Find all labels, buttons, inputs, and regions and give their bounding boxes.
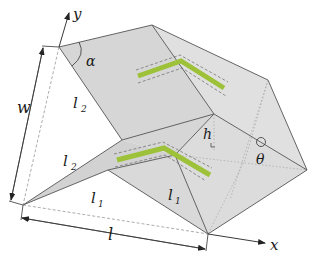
theta-label: θ: [256, 151, 265, 167]
l-label: l: [108, 225, 113, 244]
svg-text:2: 2: [80, 104, 87, 114]
x-axis: [208, 234, 265, 243]
l2-upper-label: l 2: [73, 94, 87, 114]
alpha-label: α: [86, 53, 96, 69]
w-label: w: [17, 98, 31, 117]
h-label: h: [203, 126, 212, 142]
l2-lower-label: l 2: [63, 152, 77, 172]
svg-text:l: l: [168, 186, 173, 204]
y-axis-label: y: [72, 5, 82, 23]
svg-text:1: 1: [98, 199, 104, 209]
svg-text:l: l: [91, 189, 96, 207]
svg-text:1: 1: [175, 196, 181, 206]
y-axis: [59, 13, 69, 47]
svg-text:l: l: [73, 94, 78, 112]
svg-text:l: l: [63, 152, 68, 170]
svg-text:2: 2: [70, 162, 77, 172]
x-axis-label: x: [270, 236, 279, 254]
origami-fold-diagram: y x α θ h w l l 2 l 2 l 1 l 1: [0, 0, 315, 256]
